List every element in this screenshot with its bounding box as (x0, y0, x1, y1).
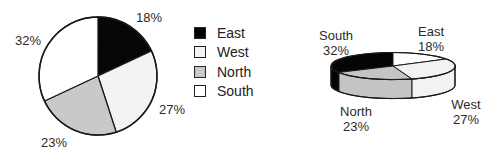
label-3d-east-name: East (413, 24, 449, 39)
label-west-pct: 27% (159, 102, 185, 117)
legend-label: East (217, 25, 245, 41)
label-3d-west: West 27% (448, 97, 484, 127)
label-3d-east-pct: 18% (413, 39, 449, 54)
legend-swatch-east (194, 27, 206, 39)
label-south-pct: 32% (15, 33, 41, 48)
legend-label: North (217, 64, 251, 80)
label-3d-south: South 32% (316, 28, 356, 58)
label-3d-south-pct: 32% (316, 43, 356, 58)
label-3d-north-name: North (334, 104, 378, 119)
legend-swatch-west (194, 46, 206, 58)
legend-swatch-north (194, 66, 206, 78)
label-3d-north: North 23% (334, 104, 378, 134)
legend-item-east: East (194, 23, 254, 43)
label-3d-west-name: West (448, 97, 484, 112)
legend-item-west: West (194, 43, 254, 63)
label-east-pct: 18% (136, 10, 162, 25)
label-3d-south-name: South (316, 28, 356, 43)
label-3d-north-pct: 23% (334, 119, 378, 134)
legend-item-south: South (194, 82, 254, 102)
legend-label: South (217, 83, 254, 99)
legend-label: West (217, 44, 249, 60)
legend-swatch-south (194, 85, 206, 97)
legend: East West North South (194, 23, 254, 101)
label-3d-west-pct: 27% (448, 112, 484, 127)
legend-item-north: North (194, 62, 254, 82)
label-north-pct: 23% (41, 135, 67, 150)
label-3d-east: East 18% (413, 24, 449, 54)
